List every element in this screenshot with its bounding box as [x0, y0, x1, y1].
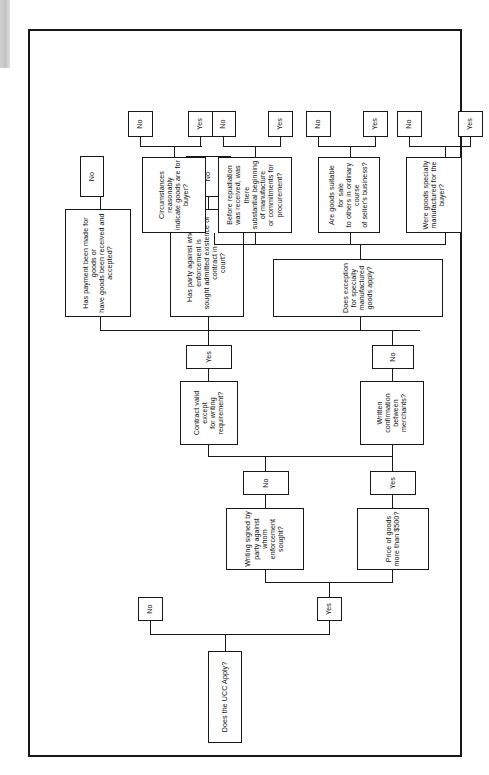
- connector-yes2-out: [392, 457, 393, 471]
- node-no-8[interactable]: No: [211, 111, 236, 137]
- connector-exception-split: [214, 244, 446, 245]
- screenshot-page: Does the UCC Apply? No Yes Writing signe…: [0, 0, 489, 775]
- connector-admitted-no: [208, 197, 209, 209]
- connector-root-yes: [329, 621, 330, 635]
- connector-to-specially-made: [445, 233, 446, 245]
- connector-to-before-repud: [255, 233, 256, 245]
- connector-to-price-500: [392, 570, 393, 583]
- connector-branch-merge: [265, 456, 393, 457]
- node-written-confirmation[interactable]: Written confirmationbetween merchants?: [360, 381, 424, 445]
- flowchart-stage: Does the UCC Apply? No Yes Writing signe…: [30, 31, 464, 759]
- connector-contractvalid-yes: [208, 369, 209, 381]
- connector-circumstances-out: [174, 147, 175, 157]
- node-no-7[interactable]: No: [306, 111, 331, 137]
- connector-suitable-split: [318, 146, 376, 147]
- connector-circumstances-no: [140, 137, 141, 147]
- connector-yes3-out: [208, 331, 209, 345]
- node-circumstances-indicate[interactable]: Circumstances reasonablyindicate goods a…: [142, 157, 206, 233]
- node-no-6[interactable]: No: [397, 111, 422, 137]
- connector-suitable-no: [318, 137, 319, 147]
- node-yes-2[interactable]: Yes: [370, 471, 416, 495]
- node-yes-4[interactable]: Yes: [458, 111, 483, 137]
- node-no-4[interactable]: No: [80, 156, 104, 197]
- node-no-2[interactable]: No: [243, 471, 289, 495]
- connector-payment-no: [100, 197, 101, 209]
- connector-before-repud-no: [223, 137, 224, 147]
- node-no-9[interactable]: No: [128, 111, 153, 137]
- node-yes-7[interactable]: Yes: [188, 111, 213, 137]
- connector-suitable-yes: [375, 137, 376, 147]
- node-no-1[interactable]: No: [138, 597, 163, 621]
- connector-yes1-split: [265, 582, 393, 583]
- connector-main-trunk: [100, 330, 420, 331]
- connector-writing-no: [265, 495, 266, 508]
- connector-root-split: [150, 634, 330, 635]
- connector-price-yes: [392, 495, 393, 508]
- scan-artifact: [0, 0, 10, 68]
- node-yes-5[interactable]: Yes: [363, 111, 388, 137]
- connector-to-suitable: [350, 233, 351, 245]
- connector-to-circumstances: [214, 233, 215, 245]
- connector-before-repud-yes: [280, 137, 281, 147]
- diagram-frame: Does the UCC Apply? No Yes Writing signe…: [28, 29, 462, 757]
- node-goods-suitable-for-sale[interactable]: Are goods suitable for saleto others in …: [318, 157, 380, 233]
- node-contract-valid[interactable]: Contract valid exceptfor writing require…: [180, 381, 238, 445]
- connector-to-exception: [360, 317, 361, 331]
- connector-yes1-out: [329, 583, 330, 597]
- connector-to-contract-valid-h: [208, 445, 209, 457]
- connector-root-out: [225, 635, 226, 651]
- node-yes-1[interactable]: Yes: [317, 597, 342, 621]
- connector-to-payment: [100, 317, 101, 331]
- connector-circumstances-yes: [200, 137, 201, 147]
- connector-specially-made-split: [409, 146, 471, 147]
- node-payment-made[interactable]: Has payment been made for goods orhave g…: [65, 209, 131, 317]
- connector-specially-made-no: [409, 137, 410, 147]
- connector-no2-out: [265, 457, 266, 471]
- connector-to-writing-signed: [265, 570, 266, 583]
- node-ucc-apply[interactable]: Does the UCC Apply?: [208, 651, 242, 743]
- connector-specially-made-yes: [470, 137, 471, 147]
- connector-specially-made-out: [445, 147, 446, 157]
- connector-before-repud-split: [223, 146, 281, 147]
- connector-to-written-conf: [392, 445, 393, 457]
- node-goods-specially-manufactured[interactable]: Were goods speciallymanufactured for the…: [406, 157, 462, 233]
- connector-exception-out: [360, 245, 361, 259]
- node-before-repudiation[interactable]: Before repudiation was received, was the…: [218, 157, 292, 233]
- connector-to-admitted: [208, 317, 209, 331]
- connector-circumstances-split: [140, 146, 202, 147]
- connector-suitable-out: [350, 147, 351, 157]
- node-no-3[interactable]: No: [372, 345, 414, 369]
- connector-before-repud-out: [255, 147, 256, 157]
- connector-to-contract-valid-v: [208, 456, 266, 457]
- node-yes-6[interactable]: Yes: [268, 111, 293, 137]
- connector-no3-out: [392, 331, 393, 345]
- node-writing-signed[interactable]: Writing signed byparty againstwhom enfor…: [226, 508, 304, 570]
- connector-root-no: [150, 621, 151, 635]
- node-price-500[interactable]: Price of goodsmore than $500?: [357, 508, 429, 570]
- node-exception-specially-made[interactable]: Does exceptionfor specially manufactured…: [273, 259, 443, 317]
- connector-writtenconf-no: [392, 369, 393, 381]
- node-yes-3[interactable]: Yes: [186, 345, 232, 369]
